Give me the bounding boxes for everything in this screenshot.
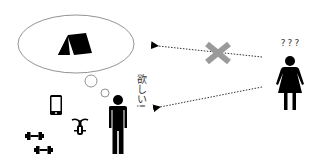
arrow-woman-to-man <box>160 87 262 107</box>
man-icon <box>109 95 127 154</box>
dumbbell-icon <box>25 132 44 140</box>
woman-question-text: ??? <box>274 38 308 48</box>
woman-icon <box>276 56 304 110</box>
bicycle-icon <box>72 119 88 135</box>
diagram-canvas: 欲しい! ??? <box>0 0 316 166</box>
man-speech-text: 欲しい! <box>134 74 146 108</box>
thought-trail <box>85 75 109 97</box>
dumbbell-icon <box>34 146 53 154</box>
smartphone-icon <box>50 95 62 115</box>
